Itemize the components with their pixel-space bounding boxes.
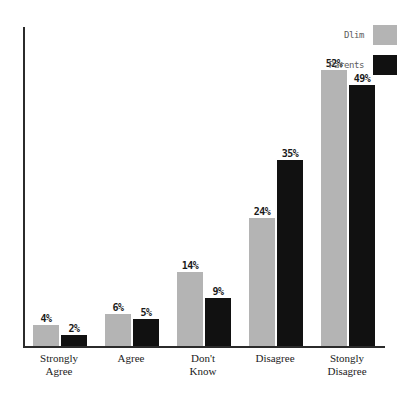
bar-1-3: 35% — [277, 160, 303, 346]
tick-label-line: Know — [160, 365, 246, 378]
bar-value-label: 24% — [254, 206, 271, 217]
bar-group: 6%5% — [97, 27, 169, 346]
bar-value-label: 35% — [282, 148, 299, 159]
legend-label-series-0: Dlim — [344, 30, 364, 40]
tick-label-line: Agree — [16, 365, 102, 378]
bar-value-label: 2% — [68, 323, 79, 334]
bar-1-0: 2% — [61, 335, 87, 346]
bar-0-0: 4% — [33, 325, 59, 346]
bar-0-4: 52% — [321, 70, 347, 346]
tick-label-line: Disagree — [304, 365, 390, 378]
bar-value-label: 6% — [112, 302, 123, 313]
legend-label-series-1: Parents — [329, 60, 364, 70]
legend-item-series-0: Dlim — [285, 24, 397, 45]
legend-swatch-series-1 — [373, 55, 397, 75]
tick-label-line: Stongly — [304, 352, 390, 365]
chart-legend: Dlim Parents — [285, 24, 397, 84]
bar-0-3: 24% — [249, 218, 275, 346]
x-axis-tick-label-4: StonglyDisagree — [304, 352, 390, 378]
bar-value-label: 14% — [182, 260, 199, 271]
x-axis-line — [23, 346, 385, 348]
bar-value-label: 4% — [40, 313, 51, 324]
bar-chart: 4%2%6%5%14%9%24%35%52%49% Dlim Parents S… — [0, 0, 409, 394]
bar-0-1: 6% — [105, 314, 131, 346]
bar-1-4: 49% — [349, 85, 375, 346]
legend-item-series-1: Parents — [285, 54, 397, 75]
bar-1-1: 5% — [133, 319, 159, 346]
bar-group: 14%9% — [169, 27, 241, 346]
bar-group: 4%2% — [25, 27, 97, 346]
bar-0-2: 14% — [177, 272, 203, 346]
legend-swatch-series-0 — [373, 25, 397, 45]
bar-value-label: 5% — [140, 307, 151, 318]
bar-1-2: 9% — [205, 298, 231, 346]
bar-value-label: 9% — [212, 286, 223, 297]
